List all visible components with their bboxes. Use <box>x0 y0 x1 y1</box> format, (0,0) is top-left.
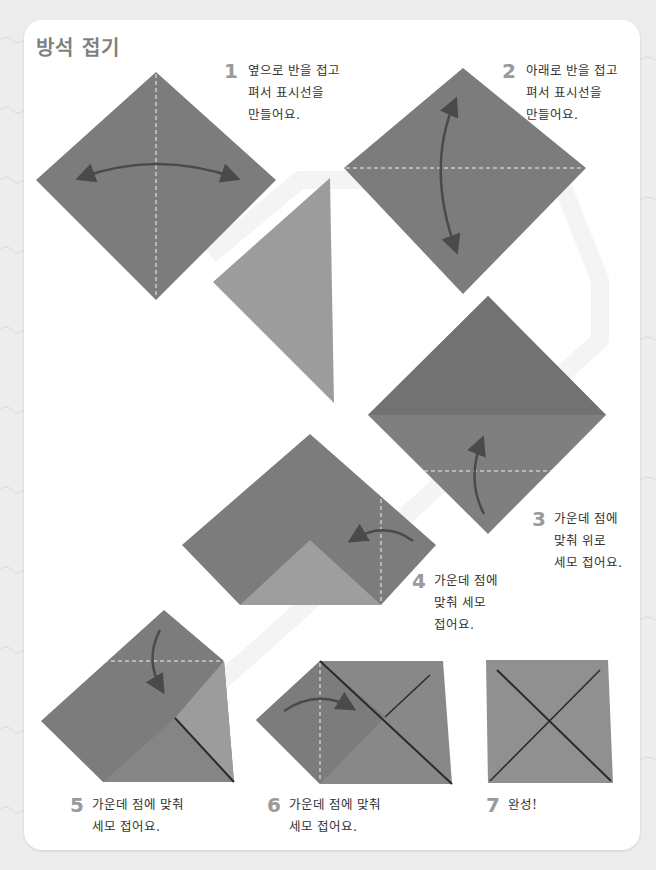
step-7-instruction: 7 완성! <box>486 794 537 816</box>
step-number: 4 <box>412 570 426 592</box>
origami-diagram <box>24 20 640 850</box>
step-5-diagram <box>41 610 234 782</box>
step-3-diagram <box>368 296 606 534</box>
instruction-card: 방석 접기 <box>24 20 640 850</box>
step-number: 1 <box>224 60 238 82</box>
step-5-instruction: 5 가운데 점에 맞춰 세모 접어요. <box>70 794 184 838</box>
step-number: 6 <box>267 794 281 816</box>
step-number: 7 <box>486 794 500 816</box>
step-6-diagram <box>256 661 452 784</box>
step-2-instruction: 2 아래로 반을 접고 펴서 표시선을 만들어요. <box>502 60 618 126</box>
step-4-diagram <box>182 434 436 605</box>
step-4-instruction: 4 가운데 점에 맞춰 세모 접어요. <box>412 570 498 636</box>
step-1-instruction: 1 옆으로 반을 접고 펴서 표시선을 만들어요. <box>224 60 340 126</box>
step-number: 5 <box>70 794 84 816</box>
step-6-instruction: 6 가운데 점에 맞춰 세모 접어요. <box>267 794 381 838</box>
step-number: 3 <box>532 508 546 530</box>
step-3-instruction: 3 가운데 점에 맞춰 위로 세모 접어요. <box>532 508 622 574</box>
step-number: 2 <box>502 60 516 82</box>
step-7-diagram <box>486 660 613 783</box>
